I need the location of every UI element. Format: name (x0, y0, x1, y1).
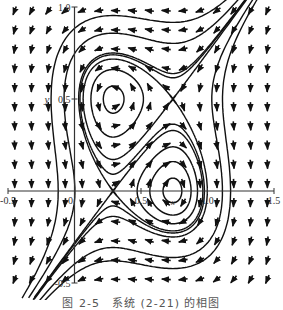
field-arrow (62, 26, 68, 33)
field-arrow (233, 198, 234, 207)
field-arrow (14, 237, 16, 246)
field-arrow (64, 217, 66, 226)
field-arrow (162, 29, 171, 30)
field-arrow (97, 83, 101, 91)
x-tick-label: 1.5 (268, 195, 281, 206)
field-arrow (162, 143, 170, 147)
field-arrow (82, 179, 83, 188)
field-arrow (111, 221, 120, 222)
field-arrow (249, 237, 251, 246)
field-arrow (145, 259, 154, 261)
field-arrow (179, 10, 188, 11)
field-arrow (81, 141, 83, 150)
field-arrow (128, 48, 137, 51)
field-arrow (14, 217, 15, 226)
field-arrow (95, 239, 103, 242)
field-arrow (94, 279, 103, 281)
field-arrow (248, 275, 252, 283)
field-arrow (266, 275, 269, 283)
field-arrow (30, 237, 32, 246)
field-arrow (48, 121, 49, 130)
field-arrow (196, 28, 204, 32)
field-arrow (48, 198, 49, 207)
x-tick-label: 1.0 (201, 195, 214, 206)
field-arrow (30, 26, 33, 34)
x-tick-label: -0.5 (0, 195, 16, 206)
field-arrow (46, 26, 50, 34)
field-arrow (94, 10, 103, 12)
field-arrow (199, 83, 201, 92)
field-arrow (147, 83, 151, 91)
field-arrow (162, 67, 171, 69)
field-arrow (128, 240, 137, 243)
field-arrow (81, 198, 82, 207)
field-arrow (31, 141, 32, 150)
field-arrow (95, 47, 103, 50)
field-arrow (214, 257, 220, 264)
field-arrow (48, 141, 49, 150)
field-arrow (267, 217, 268, 226)
field-arrow (31, 121, 32, 130)
field-arrow (216, 121, 217, 130)
trajectory-curve (39, 0, 257, 300)
field-arrow (162, 260, 171, 261)
field-arrow (249, 26, 252, 34)
field-arrow (199, 121, 201, 130)
x-tick-label: 0 (68, 195, 73, 206)
field-arrow (197, 46, 204, 52)
phase-portrait-chart: -0.500.51.01.51.00.5-0.5yx (0, 0, 283, 300)
field-arrow (111, 201, 120, 204)
field-arrow (233, 64, 235, 73)
field-arrow (200, 179, 201, 188)
field-arrow (233, 160, 234, 169)
field-arrow (233, 217, 235, 226)
field-arrow (48, 64, 50, 73)
field-arrow (216, 160, 217, 169)
y-tick-label: 1.0 (58, 2, 71, 13)
field-arrow (182, 179, 185, 188)
field-arrow (214, 27, 220, 34)
field-arrow (31, 160, 32, 169)
field-arrow (13, 26, 15, 35)
field-arrow (232, 237, 235, 245)
field-arrow (65, 141, 66, 150)
field-arrow (64, 64, 66, 73)
field-arrow (231, 256, 235, 264)
field-arrow (128, 29, 137, 31)
field-arrow (95, 66, 102, 71)
field-arrow (179, 48, 188, 50)
field-arrow (111, 163, 120, 165)
field-arrow (111, 125, 120, 127)
field-arrow (145, 48, 154, 51)
field-arrow (179, 240, 188, 242)
field-arrow (31, 64, 32, 73)
field-arrow (63, 45, 67, 53)
field-arrow (31, 217, 32, 226)
field-arrow (81, 160, 83, 169)
field-arrow (162, 240, 171, 241)
y-tick-label: 0.5 (58, 94, 71, 105)
field-arrow (111, 49, 120, 50)
tick-labels: -0.500.51.01.51.00.5-0.5yx (0, 2, 280, 289)
field-arrow (267, 45, 269, 54)
field-arrow (200, 102, 201, 111)
field-arrow (148, 102, 150, 111)
field-arrow (111, 241, 120, 242)
field-arrow (111, 68, 120, 69)
field-arrow (196, 278, 204, 281)
field-arrow (30, 45, 32, 54)
field-arrow (145, 10, 154, 11)
x-axis-label: x (170, 198, 175, 207)
field-arrow (267, 237, 269, 246)
field-arrow (128, 279, 137, 280)
field-arrow (233, 121, 234, 130)
field-arrow (250, 217, 251, 226)
field-arrow (231, 276, 237, 283)
trajectory-curve (150, 162, 191, 216)
field-arrow (112, 104, 120, 109)
field-arrow (82, 102, 83, 111)
trajectory-curve (22, 0, 238, 298)
field-arrow (233, 83, 234, 92)
field-arrow (250, 141, 251, 150)
field-arrow (162, 48, 171, 49)
